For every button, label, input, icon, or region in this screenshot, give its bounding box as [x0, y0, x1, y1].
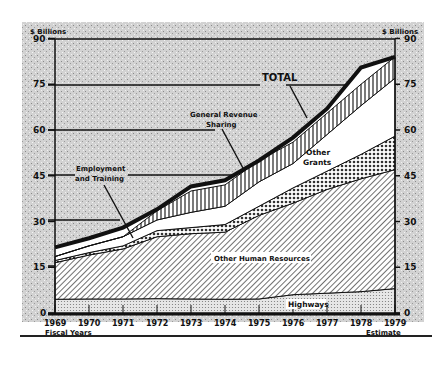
stacked-area-chart: 1969197019711972197319741975197619771978…	[0, 0, 446, 366]
x-tick-label: 1975	[248, 319, 271, 328]
y-tick-label: 15	[404, 262, 417, 272]
y-tick-label: 60	[404, 125, 417, 135]
y-tick-label: 75	[404, 79, 417, 89]
x-tick-label: 1969	[44, 319, 67, 328]
x-tick-label: 1978	[350, 319, 373, 328]
y-tick-label: 15	[33, 262, 46, 272]
y-tick-label: 60	[33, 125, 46, 135]
y-tick-label: 30	[404, 217, 417, 227]
label-grs-1: General Revenue	[190, 111, 258, 119]
x-axis-title: Fiscal Years	[45, 329, 92, 337]
label-other-grants-1: Other	[306, 148, 330, 157]
y-tick-label: 0	[404, 308, 410, 318]
label-et-1: Employment	[76, 165, 126, 173]
y-tick-label: 75	[33, 79, 46, 89]
y-tick-label: 30	[33, 217, 46, 227]
x-tick-label: 1972	[146, 319, 168, 328]
label-ohr: Other Human Resources	[214, 255, 310, 263]
label-grs-2: Sharing	[206, 121, 237, 129]
y-tick-label: 45	[404, 171, 417, 181]
x-tick-label: 1973	[180, 319, 202, 328]
y-tick-label: 0	[40, 308, 46, 318]
x-tick-label: 1976	[282, 319, 305, 328]
label-total: TOTAL	[262, 72, 298, 83]
label-other-grants-2: Grants	[303, 158, 332, 167]
x-tick-label: 1971	[112, 319, 135, 328]
x-tick-label: 1974	[214, 319, 237, 328]
y-unit-left: $ Billions	[30, 28, 66, 36]
x-tick-label: 1977	[316, 319, 338, 328]
y-unit-right: $ Billions	[382, 28, 418, 36]
label-et-2: and Training	[75, 175, 124, 183]
estimate-note: Estimate	[366, 329, 401, 337]
y-tick-label: 45	[33, 171, 46, 181]
x-tick-label: 1979	[384, 319, 407, 328]
label-highways: Highways	[288, 300, 329, 309]
x-tick-label: 1970	[78, 319, 101, 328]
